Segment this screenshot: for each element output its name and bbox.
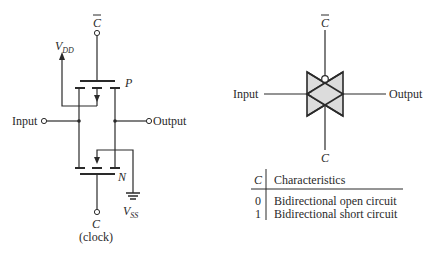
terminal-circle xyxy=(41,118,46,123)
symbol-input-label: Input xyxy=(233,87,259,101)
symbol-bottom-label: C xyxy=(321,151,330,165)
terminal-circle xyxy=(94,209,99,214)
table-cell-text: Bidirectional short circuit xyxy=(274,207,398,221)
terminal-circle xyxy=(146,118,151,123)
symbol-output-label: Output xyxy=(389,87,423,101)
cmos-circuit xyxy=(47,36,146,209)
gate-bottom-label: C xyxy=(92,217,101,231)
terminal-circle xyxy=(94,30,99,35)
table-cell-c: 0 xyxy=(255,194,261,208)
output-label: Output xyxy=(153,114,187,128)
vss-label: VSS xyxy=(123,204,138,220)
junction-dot xyxy=(77,119,81,123)
table-header-c: C xyxy=(254,173,263,187)
arrows xyxy=(59,52,117,164)
table-header-characteristics: Characteristics xyxy=(274,173,346,187)
n-body-arrow-icon xyxy=(94,157,100,164)
gate-top-label: C xyxy=(93,16,102,30)
clock-label: (clock) xyxy=(79,230,113,244)
p-body-arrow-icon xyxy=(94,95,100,102)
input-label: Input xyxy=(12,114,38,128)
transmission-gate-diagram: C VDD P Input Output N VSS C (clock) C I… xyxy=(0,0,433,255)
p-label: P xyxy=(124,76,133,90)
junction-dot xyxy=(113,119,117,123)
vdd-label: VDD xyxy=(55,39,74,55)
inversion-bubble-icon xyxy=(322,76,329,83)
n-label: N xyxy=(117,170,127,184)
symbol-top-label: C xyxy=(321,16,330,30)
table-cell-text: Bidirectional open circuit xyxy=(274,194,397,208)
transmission-gate-symbol xyxy=(264,30,386,150)
table-cell-c: 1 xyxy=(255,207,261,221)
